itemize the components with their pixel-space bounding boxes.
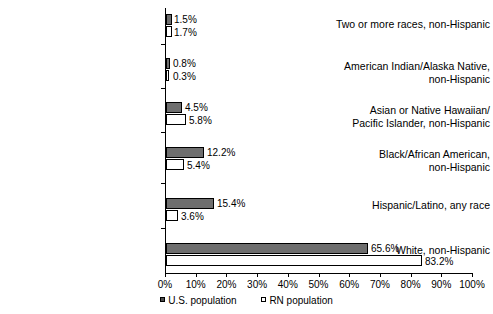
bar-rn-population [166,26,172,37]
bar-us-population [166,147,204,158]
x-axis-tick [380,273,381,277]
x-axis-tick [257,273,258,277]
bar-rn-population [166,159,184,170]
bar-us-population [166,102,182,113]
x-axis-tick [165,273,166,277]
legend-label: RN population [269,295,332,306]
bar-rn-population [166,70,169,81]
bar-value-label: 65.6% [371,243,399,254]
y-axis-tick [161,132,165,133]
bar-us-population [166,58,170,69]
y-axis-line [165,8,166,273]
x-axis-tick-label: 100% [452,279,492,291]
bar-value-label: 1.7% [174,27,197,38]
x-axis-tick [196,273,197,277]
x-axis-tick [472,273,473,277]
x-axis-tick [411,273,412,277]
bar-us-population [166,243,368,254]
bar-rn-population [166,255,422,266]
bar-rn-population [166,114,186,125]
bar-value-label: 0.3% [173,71,196,82]
legend-label: U.S. population [168,295,236,306]
bar-value-label: 4.5% [185,102,208,113]
bar-us-population [166,14,172,25]
y-axis-tick [161,88,165,89]
y-axis-tick [161,183,165,184]
bar-value-label: 5.4% [187,160,210,171]
y-axis-tick [161,228,165,229]
chart-legend: U.S. population RN population [0,293,493,307]
bar-value-label: 15.4% [217,198,245,209]
plot-area: 1.5% 1.7% 0.8% 0.3% 4.5% 5.8% 12.2% 5.4%… [165,8,472,273]
bar-us-population [166,198,214,209]
legend-swatch-icon [261,297,266,302]
bar-value-label: 5.8% [189,115,212,126]
bar-value-label: 3.6% [181,211,204,222]
x-axis-tick [226,273,227,277]
y-axis-tick [161,44,165,45]
bar-value-label: 12.2% [207,147,235,158]
bar-value-label: 83.2% [425,256,453,267]
legend-swatch-icon [160,297,165,302]
bar-rn-population [166,210,178,221]
bar-value-label: 0.8% [173,58,196,69]
bar-value-label: 1.5% [174,14,197,25]
x-axis-tick [288,273,289,277]
x-axis-tick [349,273,350,277]
x-axis-tick [441,273,442,277]
legend-entry-us-population: U.S. population [160,293,236,307]
x-axis-tick [319,273,320,277]
bar-chart: Two or more races, non-Hispanic American… [0,0,493,314]
legend-entry-rn-population: RN population [261,293,332,307]
